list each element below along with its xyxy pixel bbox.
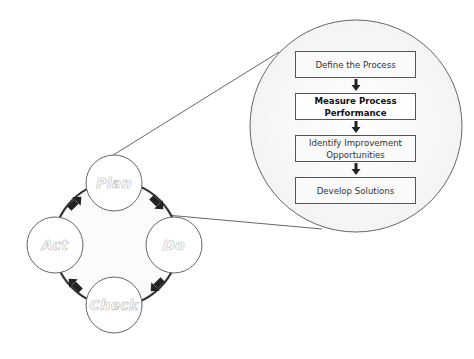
step-develop-solutions: Develop Solutions: [295, 177, 416, 204]
node-do-label: Do: [146, 217, 202, 273]
step-define-process: Define the Process: [295, 51, 416, 78]
step-label: Measure Process Performance: [310, 95, 401, 119]
step-label: Define the Process: [315, 59, 395, 71]
node-plan-label: Plan: [86, 155, 142, 211]
node-act-label: Act: [27, 217, 83, 273]
pdca-diagram: Plan Do Check Act Define the Process Mea…: [0, 0, 474, 359]
node-check-label: Check: [86, 277, 142, 333]
step-label: Identify Improvement Opportunities: [306, 137, 405, 161]
step-measure-performance: Measure Process Performance: [295, 93, 416, 120]
step-label: Develop Solutions: [317, 185, 395, 197]
step-identify-opportunities: Identify Improvement Opportunities: [295, 135, 416, 162]
